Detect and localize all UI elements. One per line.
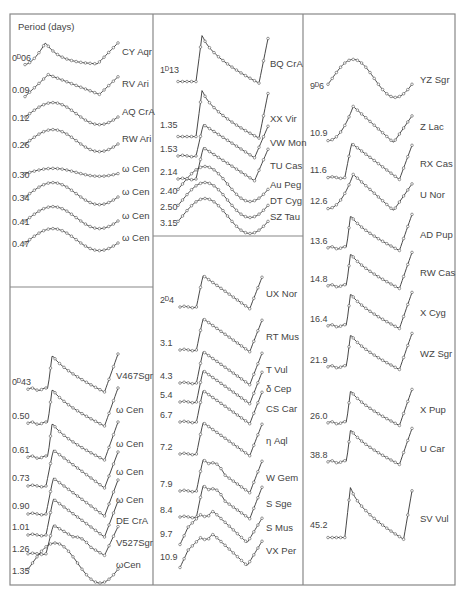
data-point bbox=[207, 515, 210, 518]
panel-middle-bottom: 2ᴰ4UX Nor3.1RT Mus4.3T Vul5.4δ Cep6.7CS … bbox=[160, 275, 299, 568]
data-point bbox=[267, 188, 270, 191]
light-curve bbox=[28, 499, 118, 537]
data-point bbox=[93, 91, 96, 94]
data-point bbox=[112, 463, 115, 466]
data-point bbox=[226, 118, 229, 121]
data-point bbox=[249, 232, 252, 235]
data-point bbox=[31, 455, 34, 458]
data-point bbox=[67, 533, 70, 536]
data-point bbox=[253, 215, 256, 218]
period-label: 0.41 bbox=[12, 217, 30, 227]
data-point bbox=[203, 538, 206, 541]
data-point bbox=[61, 103, 64, 106]
star-label: VW Mon bbox=[270, 137, 306, 148]
data-point bbox=[407, 189, 410, 192]
data-point bbox=[199, 470, 202, 473]
data-point bbox=[33, 213, 36, 216]
data-point bbox=[232, 506, 235, 509]
data-point bbox=[85, 415, 88, 418]
data-point bbox=[232, 529, 235, 532]
data-point bbox=[381, 88, 384, 91]
data-point bbox=[195, 401, 198, 404]
data-point bbox=[249, 132, 252, 135]
data-point bbox=[240, 397, 243, 400]
light-curve bbox=[180, 352, 262, 385]
data-point bbox=[253, 507, 256, 510]
data-point bbox=[52, 50, 55, 53]
data-point bbox=[190, 80, 193, 83]
data-point bbox=[45, 513, 48, 516]
star-label: δ Cep bbox=[266, 383, 291, 394]
data-point bbox=[244, 305, 247, 308]
data-point bbox=[262, 225, 265, 228]
data-point bbox=[411, 183, 414, 186]
data-point bbox=[213, 169, 216, 172]
data-point bbox=[390, 95, 393, 98]
data-point bbox=[31, 512, 34, 515]
data-point bbox=[84, 88, 87, 91]
period-label: 0.73 bbox=[12, 473, 30, 483]
data-point bbox=[212, 357, 215, 360]
data-point bbox=[257, 524, 260, 527]
data-point bbox=[94, 420, 97, 423]
data-point bbox=[89, 201, 92, 204]
data-point bbox=[377, 128, 380, 131]
data-point bbox=[70, 235, 73, 238]
data-point bbox=[45, 546, 48, 549]
data-point bbox=[103, 249, 106, 252]
star-label: X Pup bbox=[420, 404, 446, 415]
data-point bbox=[90, 526, 93, 529]
data-point bbox=[36, 556, 39, 559]
data-point bbox=[67, 437, 70, 440]
data-point bbox=[38, 186, 41, 189]
data-point bbox=[369, 351, 372, 354]
data-point bbox=[390, 245, 393, 248]
data-point bbox=[94, 480, 97, 483]
data-point bbox=[228, 293, 231, 296]
data-point bbox=[249, 77, 252, 80]
data-point bbox=[66, 232, 69, 235]
data-point bbox=[258, 137, 261, 140]
data-point bbox=[235, 168, 238, 171]
data-point bbox=[216, 489, 219, 492]
data-point bbox=[249, 200, 252, 203]
light-curve bbox=[28, 478, 118, 516]
data-point bbox=[107, 225, 110, 228]
data-point bbox=[217, 188, 220, 191]
data-point bbox=[226, 199, 229, 202]
data-point bbox=[103, 425, 106, 428]
data-point bbox=[58, 502, 61, 505]
data-point bbox=[38, 51, 41, 54]
data-point bbox=[195, 518, 198, 521]
data-point bbox=[58, 430, 61, 433]
data-point bbox=[232, 552, 235, 555]
data-point bbox=[204, 165, 207, 168]
data-point bbox=[40, 553, 43, 556]
data-point bbox=[199, 496, 202, 499]
data-point bbox=[94, 529, 97, 532]
data-point bbox=[262, 209, 265, 212]
data-point bbox=[84, 62, 87, 65]
data-point bbox=[108, 503, 111, 506]
data-point bbox=[70, 213, 73, 216]
data-point bbox=[89, 225, 92, 228]
data-point bbox=[190, 135, 193, 138]
data-point bbox=[402, 412, 405, 415]
data-point bbox=[207, 354, 210, 357]
data-point bbox=[224, 521, 227, 524]
data-point bbox=[81, 498, 84, 501]
data-point bbox=[377, 451, 380, 454]
data-point bbox=[199, 46, 202, 49]
data-point bbox=[42, 78, 45, 81]
data-point bbox=[61, 79, 64, 82]
data-point bbox=[360, 181, 363, 184]
data-point bbox=[220, 540, 223, 543]
data-point bbox=[365, 184, 368, 187]
data-point bbox=[339, 461, 342, 464]
data-point bbox=[258, 213, 261, 216]
data-point bbox=[80, 143, 83, 146]
data-point bbox=[228, 388, 231, 391]
data-point bbox=[90, 384, 93, 387]
data-point bbox=[402, 275, 405, 278]
data-point bbox=[257, 362, 260, 365]
